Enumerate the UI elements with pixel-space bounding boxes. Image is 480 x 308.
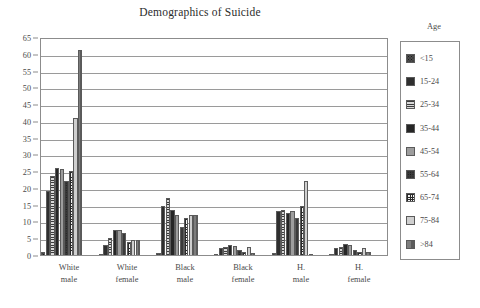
legend-swatch-icon <box>406 170 415 179</box>
legend-swatch-icon <box>406 240 415 249</box>
legend-item[interactable]: 55-64 <box>406 163 459 186</box>
x-axis-category-label-line: H. <box>272 262 330 274</box>
bar <box>131 240 135 255</box>
bar <box>117 230 121 255</box>
bar <box>300 206 304 255</box>
legend-swatch-icon <box>406 193 415 202</box>
x-axis-category-label-line: Black <box>156 262 214 274</box>
y-axis-tick-label: 60 <box>23 50 31 59</box>
bar <box>247 247 251 255</box>
bar <box>290 211 294 255</box>
bar <box>103 245 107 255</box>
legend-item[interactable]: 75-84 <box>406 209 459 232</box>
legend-swatch-icon <box>406 216 415 225</box>
bar <box>242 252 246 255</box>
bar <box>175 215 179 255</box>
bar <box>166 198 170 255</box>
legend-item-label: 55-64 <box>420 170 439 179</box>
bar <box>286 213 290 255</box>
legend-item-label: 75-84 <box>420 216 439 225</box>
y-axis: 05101520253035404550556065 <box>0 38 38 256</box>
bar <box>180 227 184 256</box>
y-axis-tick-label: 65 <box>23 34 31 43</box>
y-axis-tick-label: 50 <box>23 84 31 93</box>
bar <box>276 211 280 255</box>
plot-area <box>40 38 388 256</box>
bar <box>99 254 103 255</box>
bar-group <box>272 39 330 255</box>
bar <box>233 246 237 255</box>
legend-box: <1515-2425-3435-4445-5455-6465-7475-84>8… <box>400 41 460 260</box>
bar-group <box>214 39 272 255</box>
legend-item[interactable]: 15-24 <box>406 70 459 93</box>
bar <box>69 171 73 255</box>
y-axis-tick-mark <box>33 38 38 39</box>
legend-swatch-icon <box>406 54 415 63</box>
bar <box>156 253 160 255</box>
bar <box>228 245 232 255</box>
bar-group <box>156 39 214 255</box>
x-axis-category-label-line: male <box>40 274 98 286</box>
y-axis-tick-label: 10 <box>23 218 31 227</box>
legend-item-label: >84 <box>420 240 433 249</box>
legend-item[interactable]: 35-44 <box>406 117 459 140</box>
bar <box>343 244 347 255</box>
bar <box>362 248 366 255</box>
legend-swatch-icon <box>406 124 415 133</box>
bar <box>189 215 193 255</box>
y-axis-tick-label: 0 <box>27 252 31 261</box>
bar <box>237 250 241 255</box>
legend-item-label: 45-54 <box>420 147 439 156</box>
x-axis-category-label-line: Black <box>214 262 272 274</box>
bar <box>219 248 223 255</box>
bar <box>223 247 227 255</box>
y-axis-tick-label: 55 <box>23 67 31 76</box>
chart-figure: Demographics of Suicide 0510152025303540… <box>0 0 480 308</box>
y-axis-tick-mark <box>33 105 38 106</box>
x-axis-category-label-line: female <box>98 274 156 286</box>
y-axis-tick-label: 20 <box>23 184 31 193</box>
legend-item-label: 65-74 <box>420 193 439 202</box>
legend-item[interactable]: 45-54 <box>406 140 459 163</box>
bar <box>127 242 131 255</box>
y-axis-tick-mark <box>33 71 38 72</box>
bar <box>108 238 112 255</box>
bar <box>295 218 299 255</box>
x-axis-category-label-line: H. <box>330 262 388 274</box>
y-axis-tick-mark <box>33 205 38 206</box>
bar <box>161 206 165 255</box>
bar <box>122 233 126 255</box>
bar <box>366 252 370 255</box>
x-axis-category-label: Whitefemale <box>98 262 156 285</box>
bar <box>304 181 308 255</box>
x-axis-category-label: H.female <box>330 262 388 285</box>
bar <box>170 210 174 255</box>
y-axis-tick-label: 30 <box>23 151 31 160</box>
legend-item-label: 35-44 <box>420 124 439 133</box>
y-axis-tick-mark <box>33 172 38 173</box>
legend-item-label: 15-24 <box>420 77 439 86</box>
legend-item[interactable]: 25-34 <box>406 93 459 116</box>
bar <box>193 215 197 255</box>
bar <box>353 250 357 255</box>
y-axis-tick-label: 40 <box>23 117 31 126</box>
y-axis-tick-mark <box>33 188 38 189</box>
y-axis-tick-mark <box>33 54 38 55</box>
legend-item[interactable]: <15 <box>406 47 459 70</box>
legend-item[interactable]: >84 <box>406 233 459 256</box>
x-axis-category-label-line: White <box>40 262 98 274</box>
bar <box>50 176 54 255</box>
x-axis-category-label-line: female <box>330 274 388 286</box>
x-axis-category-label: Whitemale <box>40 262 98 285</box>
legend-item[interactable]: 65-74 <box>406 186 459 209</box>
bar <box>348 245 352 255</box>
x-axis-category-label-line: male <box>156 274 214 286</box>
y-axis-tick-label: 25 <box>23 168 31 177</box>
bar <box>55 168 59 255</box>
x-axis-category-label: Blackmale <box>156 262 214 285</box>
chart-title: Demographics of Suicide <box>0 6 400 18</box>
legend-swatch-icon <box>406 100 415 109</box>
y-axis-tick-mark <box>33 138 38 139</box>
legend-item-label: 25-34 <box>420 100 439 109</box>
bar <box>309 254 313 255</box>
